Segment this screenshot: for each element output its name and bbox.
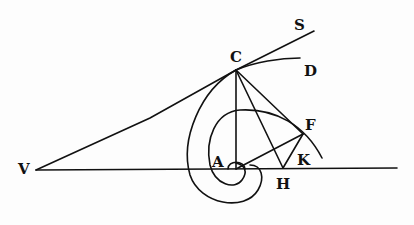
label-K: K [297,153,310,168]
label-D: D [304,64,317,79]
label-F: F [305,118,316,133]
spiral-tangent-diagram: S C D F A K V H [0,0,414,225]
diagram-lines [0,0,414,225]
label-H: H [276,177,290,192]
label-V: V [18,162,30,177]
line-CH [236,70,283,168]
label-S: S [294,18,305,33]
label-A: A [212,155,224,170]
label-C: C [230,50,242,65]
spiral-arc-CD [236,58,300,70]
